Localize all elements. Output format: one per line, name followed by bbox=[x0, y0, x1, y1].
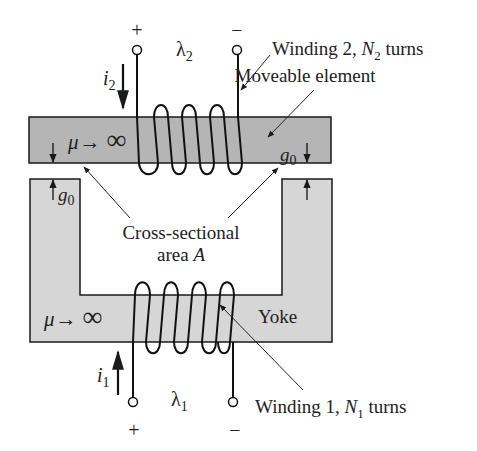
terminal-1-plus bbox=[129, 398, 138, 407]
plus-sign-1: + bbox=[128, 419, 139, 441]
cross-section-left-leader bbox=[84, 167, 130, 218]
cross-section-right-leader bbox=[228, 168, 278, 218]
terminal-1-minus bbox=[229, 398, 238, 407]
cross-section-label-line1: Cross-sectional bbox=[122, 222, 239, 243]
cross-section-label-line2: area A bbox=[157, 244, 205, 265]
moveable-element-label: Moveable element bbox=[235, 65, 377, 86]
terminal-2-plus bbox=[133, 46, 142, 55]
current-i2-label: i2 bbox=[103, 67, 116, 93]
minus-sign-1: − bbox=[229, 419, 240, 441]
flux-lambda-2: λ2 bbox=[176, 38, 193, 64]
winding-1-label: Winding 1, N1 turns bbox=[255, 396, 406, 421]
winding-2-label: Winding 2, N2 turns bbox=[272, 38, 423, 63]
terminal-2-minus bbox=[233, 46, 242, 55]
plus-sign-2: + bbox=[131, 19, 142, 41]
magnetic-actuator-diagram: + − λ2 i2 Winding 2, N2 turns Moveable e… bbox=[0, 0, 477, 451]
current-i1-label: i1 bbox=[97, 364, 110, 390]
minus-sign-2: − bbox=[231, 19, 242, 41]
yoke-label: Yoke bbox=[258, 306, 297, 327]
flux-lambda-1: λ1 bbox=[171, 388, 188, 414]
